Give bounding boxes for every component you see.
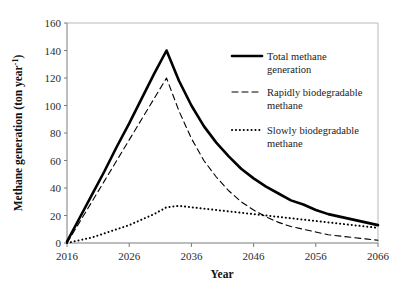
y-axis-title-text: Methane generation (ton year (12, 65, 25, 211)
x-tick-label: 2066 (367, 250, 390, 262)
x-tick-label: 2036 (180, 250, 203, 262)
legend-label-line1: Slowly biodegradable (267, 125, 359, 136)
figure-container: 020406080100120140160 201620262036204620… (0, 0, 406, 292)
y-tick-label: 140 (45, 45, 62, 57)
methane-generation-line-chart: 020406080100120140160 201620262036204620… (0, 0, 406, 292)
y-tick-label: 20 (50, 210, 62, 222)
legend-label-line2: methane (267, 138, 303, 149)
y-tick-label: 160 (45, 17, 62, 29)
x-axis-title: Year (211, 268, 234, 280)
x-tick-label: 2026 (118, 250, 141, 262)
x-tick-label: 2016 (56, 250, 79, 262)
legend-label-line1: Total methane (267, 51, 327, 62)
svg-text:Methane generation (ton year-1: Methane generation (ton year-1) (11, 55, 26, 212)
legend-label-line1: Rapidly biodegradable (267, 87, 363, 98)
legend-label-line2: methane (267, 100, 303, 111)
x-tick-label: 2046 (243, 250, 266, 262)
y-axis-title-superscript: -1 (11, 59, 20, 66)
y-tick-label: 40 (50, 182, 62, 194)
y-tick-label: 0 (56, 237, 62, 249)
y-axis-title: Methane generation (ton year-1) (11, 55, 26, 212)
y-tick-label: 120 (45, 72, 62, 84)
y-tick-label: 100 (45, 100, 62, 112)
y-tick-label: 60 (50, 155, 62, 167)
legend-label-line2: generation (267, 64, 312, 75)
x-tick-label: 2056 (305, 250, 328, 262)
y-axis-title-tail: ) (12, 55, 25, 59)
y-tick-label: 80 (50, 127, 62, 139)
